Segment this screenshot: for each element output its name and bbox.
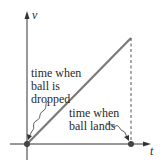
- x-axis-label: t: [150, 145, 153, 157]
- dropped-label-line2: ball is: [31, 80, 60, 92]
- drop-point-dot: [24, 141, 30, 147]
- y-axis-label: v: [32, 9, 37, 21]
- lands-label-line2: ball lands: [69, 120, 115, 132]
- velocity-time-diagram: v t time when ball is dropped time when …: [0, 0, 164, 166]
- dropped-label-line3: dropped: [31, 93, 70, 105]
- graph-canvas: [0, 0, 164, 166]
- dropped-label-line1: time when: [31, 67, 81, 79]
- land-point-dot: [128, 141, 134, 147]
- y-axis-arrow-icon: [25, 11, 30, 19]
- lands-label-line1: time when: [69, 107, 119, 119]
